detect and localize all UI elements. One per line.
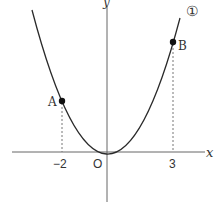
curve-label: ① <box>186 3 199 19</box>
tick-label-3: 3 <box>169 157 176 171</box>
parabola-graph: A B ① y x O −2 3 <box>0 0 219 202</box>
y-axis-label: y <box>102 0 110 9</box>
parabola-curve <box>32 10 180 154</box>
point-a <box>59 98 65 104</box>
x-axis-label: x <box>206 145 214 160</box>
point-a-label: A <box>47 95 57 109</box>
tick-label-neg2: −2 <box>53 157 67 171</box>
origin-label: O <box>93 157 102 171</box>
point-b <box>170 39 176 45</box>
point-b-label: B <box>178 39 187 53</box>
